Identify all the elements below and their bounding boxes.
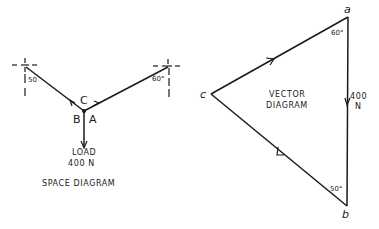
vertex-a-label: a xyxy=(344,3,351,16)
space-diagram xyxy=(12,58,180,148)
label-b: B xyxy=(73,113,81,126)
label-a: A xyxy=(89,113,97,126)
vertex-b-label: b xyxy=(342,208,349,221)
vector-ab xyxy=(347,17,348,206)
right-angle-label: 60° xyxy=(152,75,164,83)
angle-a-label: 60° xyxy=(331,29,343,37)
angle-b-label: 50° xyxy=(330,185,342,193)
force-value-line1: 400 xyxy=(350,92,367,101)
diagram-canvas: 50 60° C B A LOAD 400 N SPACE DIAGRAM a … xyxy=(0,0,379,229)
vector-bc xyxy=(211,94,347,206)
vector-diagram-title-line1: VECTOR xyxy=(269,90,305,99)
vertex-c-label: c xyxy=(200,88,206,101)
vector-ca xyxy=(211,17,348,94)
left-angle-label: 50 xyxy=(28,76,37,84)
vector-diagram xyxy=(211,17,350,206)
junction-point xyxy=(82,109,86,113)
force-value-line2: N xyxy=(355,102,362,111)
label-c: C xyxy=(80,94,88,107)
load-value: 400 N xyxy=(68,159,95,168)
rope-left xyxy=(26,67,84,111)
space-diagram-title: SPACE DIAGRAM xyxy=(42,179,115,188)
load-label: LOAD xyxy=(72,148,96,157)
vector-diagram-title-line2: DIAGRAM xyxy=(266,101,308,110)
